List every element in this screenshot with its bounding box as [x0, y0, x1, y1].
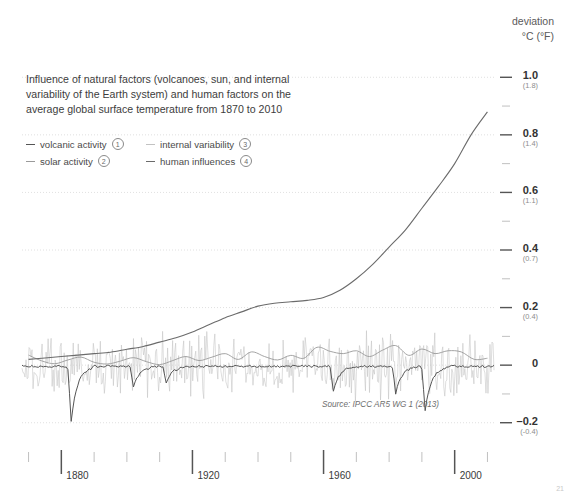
legend-dash-icon	[146, 161, 155, 162]
y-axis-label: –0.2(-0.4)	[498, 416, 538, 437]
legend-label: volcanic activity	[40, 139, 107, 150]
y-axis-label: 0.8(1.4)	[498, 128, 538, 149]
y-axis-label-fahrenheit: (1.8)	[498, 81, 538, 91]
chart-legend: volcanic activity1internal variability3s…	[26, 138, 316, 167]
legend-item-volcanic: volcanic activity1	[26, 138, 146, 150]
y-axis-label: 0.4(0.7)	[498, 243, 538, 264]
x-axis-label: 2000	[460, 470, 482, 481]
y-axis-label-celsius: 0.2	[498, 301, 538, 312]
source-attribution: Source: IPCC AR5 WG 1 (2013)	[322, 400, 439, 409]
y-axis-labels: 1.0(1.8)0.8(1.4)0.6(1.1)0.4(0.7)0.2(0.4)…	[498, 0, 560, 493]
legend-label: internal variability	[160, 139, 234, 150]
y-axis-label-fahrenheit: (0.7)	[498, 254, 538, 264]
y-axis-label: 0	[498, 358, 538, 369]
legend-item-solar: solar activity2	[26, 155, 146, 167]
y-axis-label-celsius: 0.8	[498, 128, 538, 139]
y-axis-label-celsius: 1.0	[498, 70, 538, 81]
x-axis-label: 1920	[197, 470, 219, 481]
y-axis-label-fahrenheit: (-0.4)	[498, 427, 538, 437]
legend-dash-icon	[146, 144, 155, 145]
legend-dash-icon	[26, 144, 35, 145]
y-axis-label: 0.2(0.4)	[498, 301, 538, 322]
x-axis-label: 1960	[329, 470, 351, 481]
page-number: 21	[556, 485, 564, 492]
legend-number-badge: 2	[98, 155, 110, 167]
legend-number-badge: 3	[239, 138, 251, 150]
y-axis-label-celsius: 0.4	[498, 243, 538, 254]
legend-item-internal: internal variability3	[146, 138, 316, 150]
legend-dash-icon	[26, 161, 35, 162]
y-axis-label-fahrenheit: (1.1)	[498, 196, 538, 206]
legend-label: solar activity	[40, 156, 93, 167]
y-axis-label: 1.0(1.8)	[498, 70, 538, 91]
legend-number-badge: 4	[240, 155, 252, 167]
y-axis-label: 0.6(1.1)	[498, 185, 538, 206]
chart-caption: Influence of natural factors (volcanoes,…	[26, 72, 308, 117]
x-axis-label: 1880	[66, 470, 88, 481]
y-axis-label-fahrenheit: (1.4)	[498, 139, 538, 149]
legend-number-badge: 1	[112, 138, 124, 150]
legend-item-human: human influences4	[146, 155, 316, 167]
legend-label: human influences	[160, 156, 235, 167]
y-axis-label-celsius: 0	[498, 358, 538, 369]
gridlines	[22, 77, 494, 422]
y-axis-label-celsius: –0.2	[498, 416, 538, 427]
y-axis-label-fahrenheit: (0.4)	[498, 312, 538, 322]
y-axis-label-celsius: 0.6	[498, 185, 538, 196]
x-axis-labels: 1880192019602000	[0, 448, 568, 472]
